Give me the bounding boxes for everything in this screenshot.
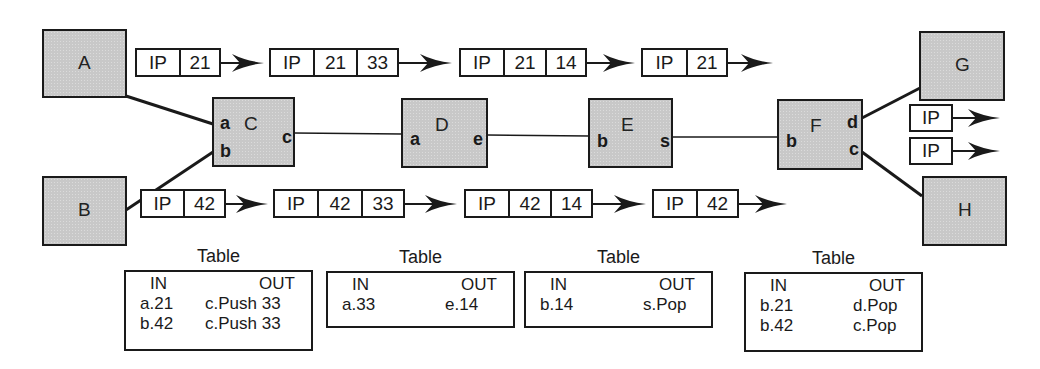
mpls-diagram: ABCabcDaeEbsFbdcGHIP21IP2133IP2114IP21IP… <box>0 0 1040 369</box>
label-cell: 21 <box>688 50 726 75</box>
table-row: b.42c.Push 33 <box>140 314 295 334</box>
ip-header-cell: IP <box>271 50 315 75</box>
forwarding-table-e: INOUTb.14s.Pop <box>524 271 713 328</box>
column-header-out: OUT <box>869 276 905 296</box>
arrow-right-icon <box>587 54 635 72</box>
bottom-path-packet: IP4214 <box>464 189 593 218</box>
label-cell: 42 <box>319 191 363 216</box>
arrow-right-icon <box>728 54 773 72</box>
node-label: H <box>958 199 972 221</box>
table-caption-d: Table <box>326 247 515 268</box>
node-d: Dae <box>401 98 488 168</box>
table-header: INOUT <box>540 275 695 295</box>
out-cell: e.14 <box>445 295 497 315</box>
arrow-right-icon <box>221 54 264 72</box>
node-label: C <box>244 113 258 135</box>
table-row: a.21c.Push 33 <box>140 294 295 314</box>
top-path-packet: IP2114 <box>459 48 587 77</box>
column-header-in: IN <box>760 276 787 296</box>
column-header-in: IN <box>140 274 167 294</box>
port-c: c <box>849 139 859 160</box>
ip-header-cell: IP <box>911 106 951 130</box>
table-row: b.42c.Pop <box>760 316 905 336</box>
port-d: d <box>847 112 858 133</box>
link-c-c-to-d-a <box>294 133 402 134</box>
node-label: E <box>621 114 634 136</box>
ip-header-cell: IP <box>643 50 688 75</box>
ip-header-cell: IP <box>275 191 319 216</box>
in-cell: b.14 <box>540 295 573 315</box>
bottom-path-packet: IP42 <box>140 189 226 218</box>
node-label: D <box>435 114 449 136</box>
arrow-right-icon <box>739 195 787 213</box>
node-b: B <box>42 176 127 246</box>
forwarding-table-c: INOUTa.21c.Push 33b.42c.Push 33 <box>124 270 313 351</box>
exit-packet: IP <box>909 104 953 132</box>
arrow-right-icon <box>593 195 646 213</box>
arrow-right-icon <box>953 109 1000 127</box>
ip-header-cell: IP <box>142 191 185 216</box>
port-c: c <box>282 127 292 148</box>
ip-header-cell: IP <box>911 139 951 163</box>
exit-packet: IP <box>909 137 953 165</box>
label-cell: 42 <box>185 191 224 216</box>
top-path-packet: IP21 <box>641 48 728 77</box>
port-b: b <box>786 131 797 152</box>
out-cell: c.Push 33 <box>205 294 295 314</box>
column-header-out: OUT <box>259 274 295 294</box>
bottom-path-packet: IP4233 <box>273 189 405 218</box>
column-header-out: OUT <box>461 275 497 295</box>
ip-header-cell: IP <box>466 191 510 216</box>
column-header-in: IN <box>540 275 567 295</box>
top-path-packet: IP21 <box>135 48 221 77</box>
node-label: A <box>78 52 91 74</box>
table-header: INOUT <box>760 276 905 296</box>
forwarding-table-f: INOUTb.21d.Popb.42c.Pop <box>744 272 923 352</box>
out-cell: s.Pop <box>643 295 695 315</box>
node-label: G <box>955 54 970 76</box>
label-cell: 21 <box>505 50 547 75</box>
port-e: e <box>473 129 483 150</box>
column-header-in: IN <box>342 275 369 295</box>
node-f: Fbdc <box>777 99 863 170</box>
label-cell: 33 <box>363 191 403 216</box>
port-a: a <box>410 129 420 150</box>
ip-header-cell: IP <box>461 50 505 75</box>
bottom-path-packet: IP42 <box>652 189 739 218</box>
arrow-right-icon <box>226 195 268 213</box>
out-cell: c.Push 33 <box>205 314 295 334</box>
in-cell: b.42 <box>760 316 793 336</box>
node-g: G <box>919 31 1005 101</box>
label-cell: 14 <box>552 191 591 216</box>
node-h: H <box>922 176 1007 246</box>
in-cell: b.21 <box>760 296 793 316</box>
label-cell: 21 <box>315 50 358 75</box>
port-b: b <box>597 131 608 152</box>
table-row: b.14s.Pop <box>540 295 695 315</box>
table-row: b.21d.Pop <box>760 296 905 316</box>
arrow-right-icon <box>399 54 452 72</box>
table-row: a.33e.14 <box>342 295 497 315</box>
in-cell: a.33 <box>342 295 375 315</box>
arrow-right-icon <box>405 195 457 213</box>
table-caption-e: Table <box>524 247 713 268</box>
out-cell: d.Pop <box>853 296 905 316</box>
table-header: INOUT <box>140 274 295 294</box>
ip-header-cell: IP <box>654 191 698 216</box>
label-cell: 14 <box>547 50 585 75</box>
column-header-out: OUT <box>659 275 695 295</box>
out-cell: c.Pop <box>853 316 905 336</box>
table-caption-f: Table <box>744 248 923 269</box>
label-cell: 42 <box>698 191 737 216</box>
top-path-packet: IP2133 <box>269 48 399 77</box>
link-a-to-c-a <box>126 96 213 124</box>
link-d-e-to-e-b <box>487 135 589 136</box>
node-e: Ebs <box>588 98 673 168</box>
in-cell: a.21 <box>140 294 173 314</box>
node-c: Cabc <box>212 97 295 167</box>
node-a: A <box>42 29 127 98</box>
node-label: F <box>810 115 822 137</box>
node-label: B <box>78 199 91 221</box>
table-header: INOUT <box>342 275 497 295</box>
label-cell: 21 <box>181 50 219 75</box>
